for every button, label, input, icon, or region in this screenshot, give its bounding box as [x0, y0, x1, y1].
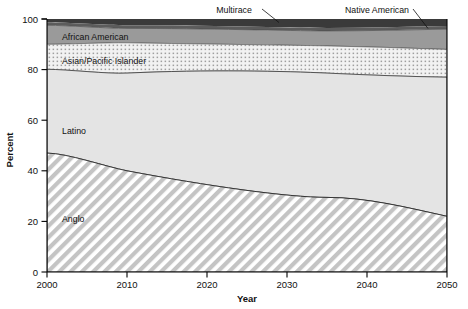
y-tick-label-20: 20	[27, 216, 38, 227]
y-tick-label-100: 100	[22, 14, 38, 25]
x-tick-label-2000: 2000	[36, 279, 57, 290]
series-label-african-american: African American	[62, 32, 129, 42]
callout-label-multirace: Multirace	[216, 5, 252, 15]
series-label-asian-pacific-islander: Asian/Pacific Islander	[62, 56, 146, 66]
stacked-area-chart: 100 80 60 40 20 0 2000 2010 2020 2030 20…	[0, 0, 468, 309]
callout-label-native-american: Native American	[345, 5, 409, 15]
y-tick-label-80: 80	[27, 64, 38, 75]
y-tick-label-40: 40	[27, 165, 38, 176]
x-tick-label-2030: 2030	[276, 279, 297, 290]
y-tick-label-60: 60	[27, 115, 38, 126]
x-tick-label-2010: 2010	[116, 279, 137, 290]
series-label-latino: Latino	[62, 126, 86, 136]
y-axis-title: Percent	[4, 132, 15, 168]
chart-figure: 100 80 60 40 20 0 2000 2010 2020 2030 20…	[0, 0, 468, 309]
series-label-anglo: Anglo	[62, 214, 85, 224]
x-tick-label-2050: 2050	[436, 279, 457, 290]
x-tick-label-2020: 2020	[196, 279, 217, 290]
x-axis-title: Year	[237, 293, 257, 304]
y-tick-label-0: 0	[33, 267, 38, 278]
x-tick-label-2040: 2040	[356, 279, 377, 290]
